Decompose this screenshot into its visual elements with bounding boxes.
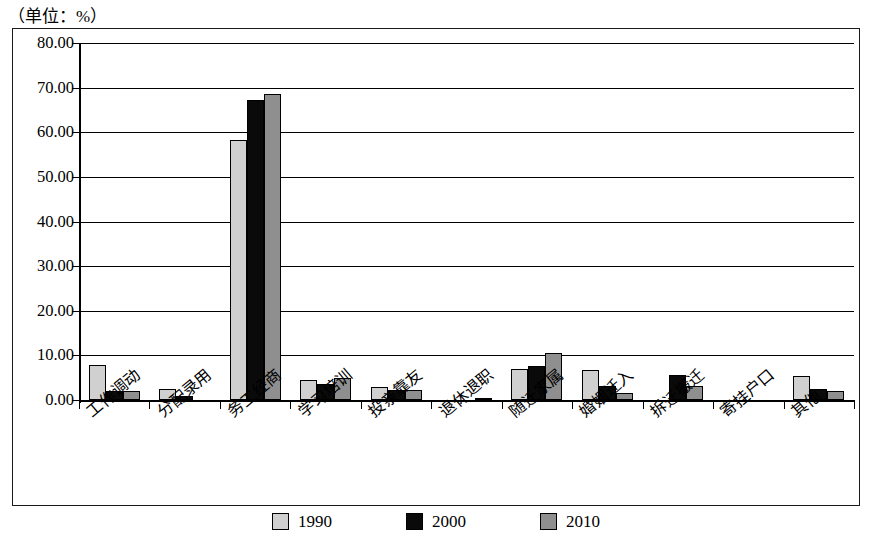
legend-swatch-2000-icon bbox=[406, 513, 423, 530]
bar-group bbox=[300, 43, 351, 400]
bar-group bbox=[652, 43, 703, 400]
y-axis-tick-mark bbox=[72, 400, 79, 401]
y-axis-tick-label: 20.00 bbox=[14, 303, 74, 320]
y-axis-tick-mark bbox=[72, 177, 79, 178]
y-axis-tick-mark bbox=[72, 311, 79, 312]
bar-group bbox=[723, 43, 774, 400]
y-axis-tick-mark bbox=[72, 355, 79, 356]
y-axis-tick-labels: 80.0070.0060.0050.0040.0030.0020.0010.00… bbox=[14, 28, 74, 408]
y-axis-tick-mark bbox=[72, 222, 79, 223]
y-axis-tick-label: 0.00 bbox=[14, 392, 74, 409]
y-axis-tick-label: 30.00 bbox=[14, 258, 74, 275]
chart-legend: 199020002010 bbox=[12, 508, 860, 534]
bar-group bbox=[441, 43, 492, 400]
y-axis-tick-label: 70.00 bbox=[14, 79, 74, 96]
bar-group bbox=[159, 43, 210, 400]
unit-caption: （单位：%） bbox=[8, 2, 107, 27]
y-axis-tick-mark bbox=[72, 88, 79, 89]
bar-group bbox=[511, 43, 562, 400]
legend-item[interactable]: 2010 bbox=[540, 513, 600, 530]
legend-swatch-2010-icon bbox=[540, 513, 557, 530]
bar-2010 bbox=[827, 391, 844, 400]
y-axis-tick-label: 50.00 bbox=[14, 169, 74, 186]
bar-group bbox=[230, 43, 281, 400]
bar-1990 bbox=[230, 140, 247, 400]
x-axis-tick-mark bbox=[854, 400, 855, 409]
legend-item[interactable]: 2000 bbox=[406, 513, 466, 530]
bar-group bbox=[582, 43, 633, 400]
x-axis-category-labels: 工作调动分配录用务工经商学习培训投亲靠友退休退职随迁家属婚姻迁入拆迁搬迁寄挂户口… bbox=[79, 400, 854, 495]
y-axis-tick-mark bbox=[72, 43, 79, 44]
bar-2000 bbox=[247, 100, 264, 400]
y-axis-tick-mark bbox=[72, 132, 79, 133]
bar-group bbox=[793, 43, 844, 400]
bar-2010 bbox=[264, 94, 281, 400]
legend-swatch-1990-icon bbox=[272, 513, 289, 530]
y-axis-tick-label: 40.00 bbox=[14, 213, 74, 230]
legend-label: 2010 bbox=[566, 513, 600, 530]
legend-item[interactable]: 1990 bbox=[272, 513, 332, 530]
bar-chart-figure: （单位：%） 80.0070.0060.0050.0040.0030.0020.… bbox=[0, 0, 872, 538]
y-axis-tick-mark bbox=[72, 266, 79, 267]
legend-label: 1990 bbox=[298, 513, 332, 530]
legend-label: 2000 bbox=[432, 513, 466, 530]
y-axis-tick-label: 80.00 bbox=[14, 35, 74, 52]
plot-area bbox=[79, 43, 854, 400]
bar-group bbox=[89, 43, 140, 400]
y-axis-tick-label: 60.00 bbox=[14, 124, 74, 141]
bar-group bbox=[371, 43, 422, 400]
y-axis-tick-label: 10.00 bbox=[14, 347, 74, 364]
